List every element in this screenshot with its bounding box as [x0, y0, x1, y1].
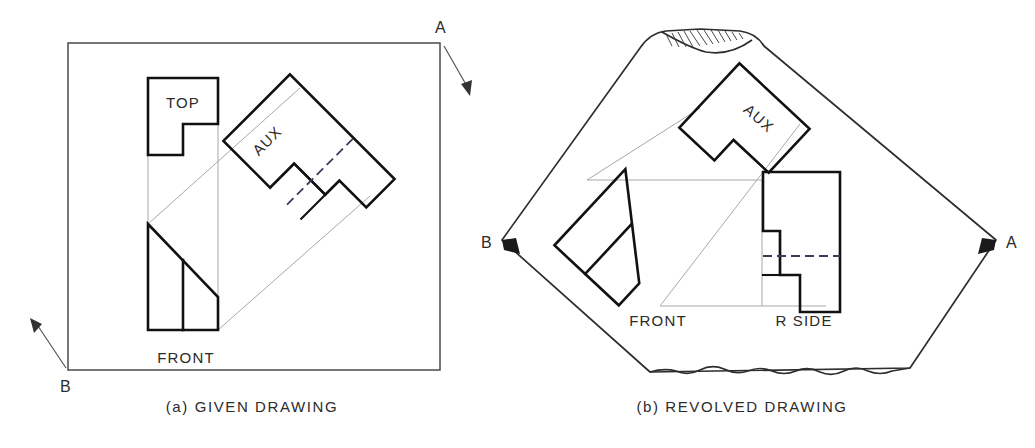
panel-a-aux-view: AUX [223, 74, 394, 245]
panel-b-front-outline [554, 169, 689, 305]
panel-b-aux-view: AUX [679, 63, 809, 193]
aux-view-hidden-line [287, 138, 353, 204]
aux-view-outline [223, 74, 394, 245]
technical-drawing-svg: TOP FRONT AUX A [0, 0, 1035, 448]
panel-b-corner-wedge-b [502, 238, 520, 254]
top-view-label: TOP [166, 94, 200, 111]
panel-b-front-view [554, 169, 689, 305]
top-view-outline [148, 78, 218, 155]
panel-b-front-label: FRONT [629, 312, 687, 329]
aux-view-lower-edge [301, 195, 325, 219]
panel-b-rside-step-edges [763, 231, 800, 275]
corner-b-arrowhead [30, 318, 42, 333]
panel-b-sheet-outline [502, 29, 996, 372]
panel-b-top-tear [662, 30, 752, 53]
aux-view-label: AUX [249, 122, 285, 158]
panel-b-aux-outline [679, 63, 809, 193]
panel-b-rside-view [763, 172, 840, 312]
panel-a-caption: (a) GIVEN DRAWING [166, 398, 338, 415]
panel-a-top-view: TOP [148, 78, 218, 155]
panel-b-aux-label: AUX [741, 100, 778, 135]
corner-label-a: A [435, 19, 447, 36]
panel-b-front-edge-line [585, 224, 631, 274]
corner-label-b: B [60, 378, 72, 395]
corner-a-arrowhead [461, 80, 472, 96]
panel-a-frame [68, 43, 440, 370]
panel-b-corner-label-a: A [1006, 234, 1018, 251]
panel-b-rside-outline [763, 172, 840, 312]
panel-b: AUX FRONT R SIDE B A (b) REVOLVED DRAWIN… [481, 29, 1018, 415]
panel-a: TOP FRONT AUX A [30, 19, 472, 415]
panel-b-caption: (b) REVOLVED DRAWING [636, 398, 847, 415]
aux-view-step-edges [270, 149, 339, 218]
panel-b-corner-label-b: B [481, 234, 493, 251]
panel-a-projection-lines [148, 88, 370, 330]
panel-b-corner-wedge-a [978, 238, 996, 254]
panel-a-front-view: FRONT [148, 224, 218, 366]
panel-b-rside-label: R SIDE [775, 312, 832, 329]
figure-canvas: TOP FRONT AUX A [0, 0, 1035, 448]
panel-a-corner-b: B [30, 318, 72, 395]
front-view-label: FRONT [157, 349, 215, 366]
